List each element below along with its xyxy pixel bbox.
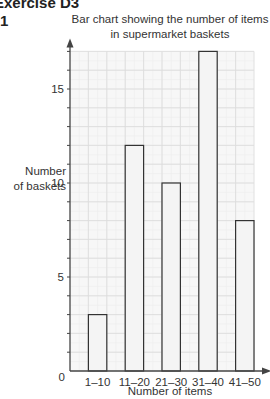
bar-chart: 1–1011–2021–3031–4041–50510150 <box>0 0 270 399</box>
y-axis-arrow-icon <box>67 38 74 47</box>
bar-21–30 <box>162 183 180 371</box>
y-tick-label: 5 <box>58 271 64 283</box>
origin-label: 0 <box>59 371 65 383</box>
bar-1–10 <box>88 315 106 371</box>
x-tick-label: 31–40 <box>192 376 224 388</box>
y-tick-label: 15 <box>51 83 64 95</box>
bar-41–50 <box>236 221 254 371</box>
x-axis-arrow-icon <box>262 368 270 375</box>
bar-11–20 <box>125 145 143 371</box>
y-tick-label: 10 <box>51 177 64 189</box>
x-tick-label: 11–20 <box>119 376 150 388</box>
x-tick-label: 21–30 <box>155 376 187 388</box>
x-tick-label: 1–10 <box>85 376 111 388</box>
bar-31–40 <box>199 51 217 371</box>
x-tick-label: 41–50 <box>229 376 261 388</box>
